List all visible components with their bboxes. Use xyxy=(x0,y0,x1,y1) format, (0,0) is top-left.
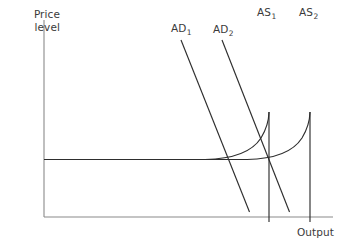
as2-label-base: AS xyxy=(299,6,313,18)
as1-label-base: AS xyxy=(257,6,271,18)
as1-curve-label: AS1 xyxy=(257,6,276,19)
ad1-curve xyxy=(181,40,250,212)
y-axis-label: Price level xyxy=(10,8,60,33)
ad-curves-group xyxy=(181,40,290,212)
ad2-label-base: AD xyxy=(213,23,228,35)
ad1-curve-label: AD1 xyxy=(171,22,192,35)
as1-curve xyxy=(44,112,269,160)
ad2-curve xyxy=(222,40,290,212)
as2-curve-group xyxy=(44,112,310,222)
as2-curve-label: AS2 xyxy=(299,6,318,19)
ad1-label-base: AD xyxy=(171,22,186,34)
axes-group xyxy=(44,20,333,217)
y-axis-label-line1: Price xyxy=(34,8,60,20)
as2-label-subscript: 2 xyxy=(313,12,318,21)
ad-as-diagram: Price level Output AD1 AD2 AS1 AS2 xyxy=(0,0,341,246)
x-axis-label: Output xyxy=(297,226,334,239)
as1-curve-group xyxy=(44,112,269,222)
y-axis-label-line2: level xyxy=(10,21,60,34)
diagram-canvas xyxy=(0,0,341,246)
as1-label-subscript: 1 xyxy=(271,12,276,21)
as2-curve xyxy=(44,112,310,160)
ad2-curve-label: AD2 xyxy=(213,23,234,36)
ad2-label-subscript: 2 xyxy=(228,29,233,38)
ad1-label-subscript: 1 xyxy=(186,28,191,37)
